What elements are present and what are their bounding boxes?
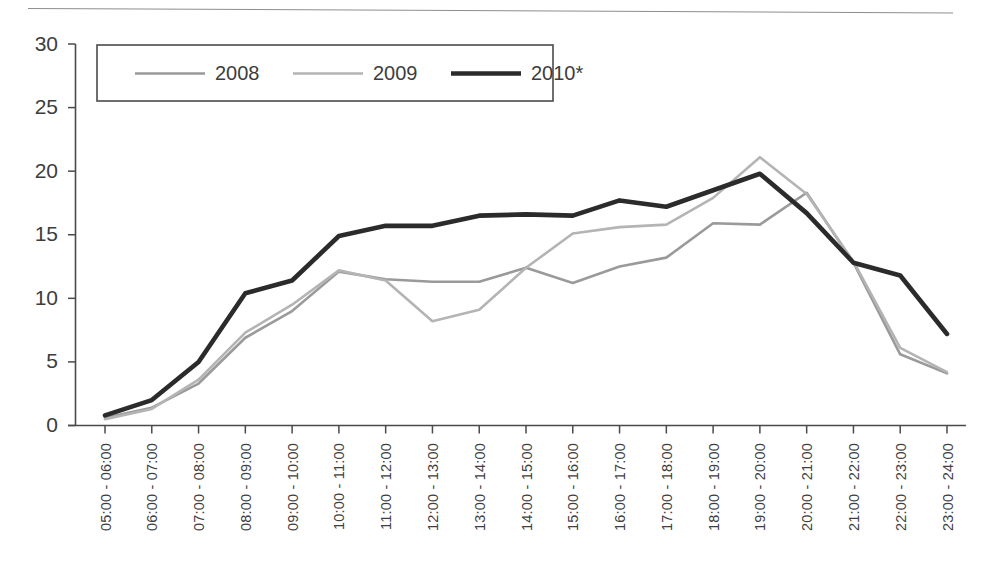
y-tick-label: 30 <box>35 32 58 55</box>
x-tick-labels: 05:00 - 06:0006:00 - 07:0007:00 - 08:000… <box>98 443 956 531</box>
y-tick-label: 10 <box>35 286 58 309</box>
x-tick-label: 18:00 - 19:00 <box>706 443 722 531</box>
x-tick-label: 21:00 - 22:00 <box>846 443 862 531</box>
x-tick-label: 07:00 - 08:00 <box>191 443 207 531</box>
x-tick-label: 14:00 - 15:00 <box>519 443 535 531</box>
x-tick-label: 06:00 - 07:00 <box>144 443 160 531</box>
y-tick-labels: 051015202530 <box>35 32 58 437</box>
chart-figure: 051015202530 05:00 - 06:0006:00 - 07:000… <box>0 0 993 583</box>
x-tick-marks <box>105 426 947 434</box>
y-tick-label: 15 <box>35 222 58 245</box>
y-tick-marks <box>68 44 76 426</box>
x-tick-label: 23:00 - 24:00 <box>940 443 956 531</box>
x-tick-label: 11:00 - 12:00 <box>378 443 394 530</box>
x-tick-label: 12:00 - 13:00 <box>425 443 441 531</box>
x-tick-label: 15:00 - 16:00 <box>565 443 581 531</box>
y-tick-label: 5 <box>46 349 58 372</box>
series-lines <box>105 157 947 419</box>
legend-label-2010: 2010* <box>531 62 583 84</box>
line-chart: 051015202530 05:00 - 06:0006:00 - 07:000… <box>0 0 993 583</box>
x-tick-label: 20:00 - 21:00 <box>799 443 815 531</box>
x-tick-label: 05:00 - 06:00 <box>98 443 114 531</box>
y-tick-label: 25 <box>35 95 58 118</box>
y-tick-label: 20 <box>35 159 58 182</box>
series-line-2010 <box>105 174 947 416</box>
legend-label-2008: 2008 <box>215 62 260 84</box>
legend-label-2009: 2009 <box>373 62 418 84</box>
series-line-2009 <box>105 157 947 419</box>
x-tick-label: 10:00 - 11:00 <box>331 443 347 530</box>
x-tick-label: 13:00 - 14:00 <box>472 443 488 531</box>
x-tick-label: 16:00 - 17:00 <box>612 443 628 531</box>
x-tick-label: 19:00 - 20:00 <box>752 443 768 531</box>
y-axis: 051015202530 <box>35 32 76 437</box>
x-tick-label: 17:00 - 18:00 <box>659 443 675 531</box>
x-tick-label: 08:00 - 09:00 <box>238 443 254 531</box>
y-tick-label: 0 <box>46 413 58 436</box>
x-tick-label: 22:00 - 23:00 <box>893 443 909 531</box>
x-tick-label: 09:00 - 10:00 <box>285 443 301 531</box>
chart-legend: 200820092010* <box>97 45 583 101</box>
x-axis: 05:00 - 06:0006:00 - 07:0007:00 - 08:000… <box>68 426 966 532</box>
